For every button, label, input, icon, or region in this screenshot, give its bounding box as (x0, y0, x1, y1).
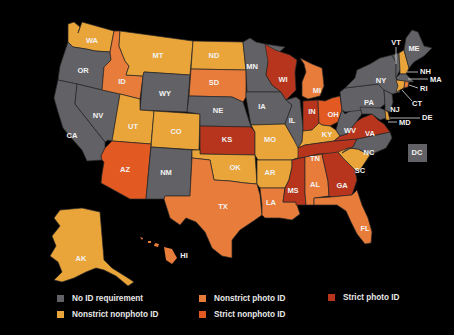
state-RI[interactable] (404, 81, 409, 88)
svg-text:AK: AK (76, 254, 87, 263)
svg-text:NC: NC (364, 148, 375, 157)
svg-text:PA: PA (364, 98, 374, 107)
svg-text:IA: IA (258, 102, 266, 111)
svg-text:OR: OR (77, 66, 89, 75)
state-AK[interactable] (50, 208, 134, 286)
svg-text:LA: LA (266, 198, 277, 207)
svg-text:ND: ND (209, 51, 220, 60)
svg-text:HI: HI (180, 251, 188, 260)
svg-text:WV: WV (344, 126, 356, 135)
svg-text:VA: VA (365, 129, 375, 138)
svg-text:AZ: AZ (120, 165, 130, 174)
svg-text:OK: OK (229, 163, 241, 172)
legend-item-strict-nonphoto: Strict nonphoto ID (199, 308, 285, 320)
svg-text:UT: UT (128, 122, 138, 131)
svg-text:MN: MN (246, 62, 258, 71)
legend-swatch (57, 295, 64, 302)
state-HI[interactable] (140, 237, 177, 264)
svg-text:NV: NV (93, 111, 103, 120)
svg-text:WI: WI (278, 75, 287, 84)
svg-text:NM: NM (160, 168, 172, 177)
state-FL[interactable] (314, 190, 372, 244)
legend-swatch (199, 295, 206, 302)
svg-text:DC: DC (412, 148, 423, 157)
svg-text:NJ: NJ (390, 105, 400, 114)
svg-text:AL: AL (310, 180, 320, 189)
legend-item-no-id: No ID requirement (57, 292, 143, 304)
svg-text:MO: MO (264, 135, 276, 144)
svg-text:IN: IN (308, 107, 316, 116)
svg-text:IL: IL (289, 116, 296, 125)
legend-label: Strict nonphoto ID (214, 310, 285, 319)
legend-label: Strict photo ID (343, 293, 399, 302)
svg-text:NE: NE (213, 106, 223, 115)
svg-text:MD: MD (399, 118, 411, 127)
svg-text:MA: MA (430, 75, 442, 84)
legend: No ID requirement Nonstrict nonphoto ID … (57, 292, 437, 332)
svg-text:CA: CA (67, 131, 78, 140)
svg-text:MS: MS (287, 186, 298, 195)
legend-swatch (57, 311, 64, 318)
svg-text:MT: MT (153, 51, 164, 60)
svg-text:AR: AR (265, 168, 276, 177)
svg-text:SD: SD (209, 78, 220, 87)
legend-item-strict-photo: Strict photo ID (328, 291, 399, 303)
svg-text:VT: VT (391, 38, 401, 47)
legend-item-nonstrict-photo: Nonstrict photo ID (199, 292, 285, 304)
svg-text:TN: TN (310, 154, 320, 163)
legend-swatch (328, 294, 335, 301)
svg-text:RI: RI (420, 84, 428, 93)
svg-text:GA: GA (336, 181, 348, 190)
svg-text:OH: OH (327, 110, 338, 119)
svg-text:KS: KS (222, 135, 232, 144)
svg-text:WY: WY (159, 89, 171, 98)
svg-text:WA: WA (86, 36, 99, 45)
legend-swatch (199, 311, 206, 318)
svg-text:FL: FL (360, 224, 370, 233)
svg-text:CT: CT (412, 99, 422, 108)
svg-text:KY: KY (322, 130, 332, 139)
svg-text:CO: CO (170, 127, 181, 136)
svg-text:MI: MI (313, 86, 321, 95)
svg-text:ME: ME (408, 44, 419, 53)
legend-label: Nonstrict photo ID (214, 294, 285, 303)
svg-text:DE: DE (422, 113, 432, 122)
svg-text:SC: SC (355, 166, 366, 175)
us-voter-id-map: WA OR CA NV ID MT WY UT CO AZ NM ND SD N… (0, 0, 454, 335)
svg-text:TX: TX (218, 202, 228, 211)
legend-label: Nonstrict nonphoto ID (72, 310, 158, 319)
svg-text:ID: ID (118, 77, 126, 86)
legend-item-nonstrict-nonphoto: Nonstrict nonphoto ID (57, 308, 158, 320)
legend-label: No ID requirement (72, 294, 143, 303)
svg-text:NY: NY (376, 76, 386, 85)
